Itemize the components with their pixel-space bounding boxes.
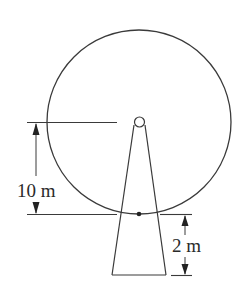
arrow-up-icon	[33, 123, 40, 135]
support-tower	[112, 125, 166, 275]
lowest-point-dot	[137, 212, 142, 217]
label-2m: 2 m	[172, 236, 201, 255]
label-10m: 10 m	[17, 181, 56, 200]
arrow-up-icon	[182, 215, 189, 226]
arrow-down-icon	[33, 202, 40, 214]
arrow-down-icon	[182, 264, 189, 275]
hub-circle	[135, 117, 145, 127]
ferris-wheel-diagram	[0, 0, 238, 295]
